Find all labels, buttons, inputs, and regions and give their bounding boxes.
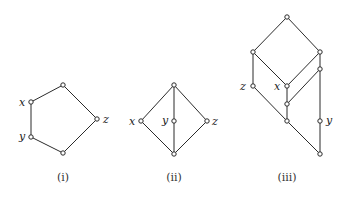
edge-z-lower bbox=[253, 86, 287, 121]
diagram-iii: zxy(iii) bbox=[239, 15, 333, 184]
node-bottom bbox=[318, 152, 322, 156]
node-label-z: z bbox=[239, 80, 246, 93]
node-bottom bbox=[61, 151, 65, 155]
node-label-x: x bbox=[19, 96, 26, 109]
node-y bbox=[318, 119, 322, 123]
node-top bbox=[61, 83, 65, 87]
edge-bottom-z bbox=[63, 119, 97, 153]
edge-top-z bbox=[174, 85, 207, 121]
node-x bbox=[139, 119, 143, 123]
node-bottom bbox=[172, 152, 176, 156]
node-x bbox=[285, 84, 289, 88]
node-label-x: x bbox=[274, 80, 281, 93]
node-y bbox=[29, 135, 33, 139]
edge-top-left bbox=[253, 17, 287, 52]
edge-right2-mid bbox=[287, 69, 320, 104]
lattice-diagrams: xyz(i) xyz(ii) zxy(iii) bbox=[0, 0, 346, 199]
node-right2 bbox=[318, 67, 322, 71]
node-top bbox=[285, 15, 289, 19]
node-label-x: x bbox=[129, 115, 136, 128]
node-x bbox=[29, 100, 33, 104]
node-z bbox=[251, 84, 255, 88]
node-z bbox=[205, 119, 209, 123]
node-mid bbox=[285, 102, 289, 106]
node-y bbox=[172, 119, 176, 123]
edge-left-x bbox=[253, 52, 287, 86]
node-label-y: y bbox=[18, 130, 26, 143]
edge-top-x bbox=[141, 85, 174, 121]
edge-lower-bottom bbox=[287, 121, 320, 154]
node-label-y: y bbox=[161, 114, 169, 127]
node-left bbox=[251, 50, 255, 54]
node-right bbox=[318, 50, 322, 54]
edge-z-bottom bbox=[174, 121, 207, 154]
edge-y-bottom bbox=[31, 137, 63, 153]
edge-x-bottom bbox=[141, 121, 174, 154]
node-label-z: z bbox=[102, 113, 109, 126]
node-z bbox=[95, 117, 99, 121]
diagram-i: xyz(i) bbox=[18, 83, 109, 184]
node-label-z: z bbox=[211, 115, 218, 128]
edge-top-x bbox=[31, 85, 63, 102]
diagram-caption: (ii) bbox=[166, 171, 182, 184]
node-top bbox=[172, 83, 176, 87]
node-lower bbox=[285, 119, 289, 123]
edge-top-right bbox=[287, 17, 320, 52]
edge-right-x bbox=[287, 52, 320, 86]
diagram-caption: (i) bbox=[57, 171, 69, 184]
edge-z-top bbox=[63, 85, 97, 119]
diagram-caption: (iii) bbox=[277, 171, 296, 184]
node-label-y: y bbox=[325, 114, 333, 127]
diagram-ii: xyz(ii) bbox=[129, 83, 218, 184]
